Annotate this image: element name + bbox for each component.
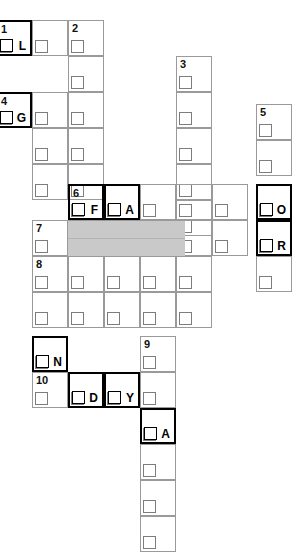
cell-r10c3[interactable]	[140, 372, 176, 408]
cell-r3c0[interactable]: 4G	[0, 92, 32, 128]
cell-r5c5[interactable]	[140, 164, 176, 200]
cell-notch-icon	[36, 355, 49, 368]
cell-r5c3-a[interactable]: A	[104, 184, 140, 220]
cell-a-bot[interactable]: A	[140, 408, 176, 444]
grid-cell[interactable]	[104, 292, 140, 328]
cell-r3c6[interactable]: 5	[256, 104, 292, 140]
cell-notch-icon	[71, 312, 84, 325]
cell-d[interactable]: D	[68, 372, 104, 408]
cell-9[interactable]: 9	[140, 336, 176, 372]
cell-notch-icon	[108, 203, 121, 216]
cell-10[interactable]: 10	[32, 372, 68, 408]
cell-letter: D	[89, 392, 98, 405]
cell-letter: Y	[126, 392, 134, 405]
clue-number: 1	[1, 23, 7, 35]
cell-notch-icon	[108, 391, 121, 404]
cell-r2c2[interactable]	[68, 56, 104, 92]
cell-r8c4[interactable]	[176, 256, 212, 292]
cell-r1c0[interactable]: 1L	[0, 20, 32, 56]
cell-notch-icon	[260, 203, 273, 216]
cell-r8c2[interactable]	[104, 256, 140, 292]
cell-r1c1[interactable]	[32, 20, 68, 56]
cell-r3c4[interactable]: 3	[176, 56, 212, 92]
grid-cell[interactable]	[68, 292, 104, 328]
cell-notch-icon	[215, 240, 228, 253]
cell-r9c1[interactable]	[32, 292, 68, 328]
cell-letter: L	[19, 40, 26, 53]
clue-number: 2	[72, 22, 78, 34]
cell-r5c2-six[interactable]: 6F	[68, 184, 104, 220]
grid-cell[interactable]	[212, 220, 248, 256]
cell-n[interactable]: N	[32, 336, 68, 372]
cell-r13c3[interactable]	[140, 480, 176, 516]
cell-r3c2[interactable]	[68, 92, 104, 128]
cell-letter: G	[17, 112, 26, 125]
cell-r5c5b[interactable]	[176, 200, 212, 236]
cell-letter: A	[125, 204, 134, 217]
clue-number: 10	[36, 374, 48, 386]
cell-notch-icon	[107, 312, 120, 325]
cell-notch-icon	[215, 204, 228, 217]
cell-letter: A	[161, 428, 170, 441]
cell-letter: O	[277, 204, 286, 217]
cell-r8c3[interactable]	[140, 256, 176, 292]
cell-r14c3[interactable]	[140, 516, 176, 552]
cell-notch-icon	[71, 148, 84, 161]
clue-number: 4	[1, 95, 7, 107]
grid-cell[interactable]	[32, 128, 68, 164]
cell-r7c0-eight[interactable]: 8	[32, 256, 68, 292]
clue-number: 8	[36, 258, 42, 270]
cell-r5c4[interactable]	[176, 128, 212, 164]
cell-letter: N	[53, 356, 62, 369]
clue-number: 3	[180, 58, 186, 70]
cell-notch-icon	[72, 203, 85, 216]
clue-number: 5	[260, 106, 266, 118]
cell-r4c4[interactable]	[176, 92, 212, 128]
cell-letter: R	[277, 240, 286, 253]
crossword-grid: 1L24G35OR6FA78N10DY9A	[0, 0, 306, 555]
cell-y[interactable]: Y	[104, 372, 140, 408]
cell-notch-icon	[179, 312, 192, 325]
cell-letter: F	[91, 204, 98, 217]
cell-notch-icon	[144, 427, 157, 440]
cell-r6c6[interactable]: R	[256, 220, 292, 256]
cell-r1c2[interactable]: 2	[68, 20, 104, 56]
clue-number: 9	[144, 338, 150, 350]
cell-r4c6[interactable]	[256, 140, 292, 176]
cell-r8c1[interactable]	[68, 256, 104, 292]
cell-notch-icon	[143, 312, 156, 325]
cell-r3c1[interactable]	[32, 92, 68, 128]
shaded-band-divider	[68, 238, 185, 239]
cell-r6c4[interactable]	[176, 164, 212, 200]
cell-notch-icon	[35, 148, 48, 161]
grid-cell[interactable]	[140, 292, 176, 328]
cell-notch-icon	[260, 239, 273, 252]
cell-notch-icon	[0, 39, 13, 52]
grid-cell[interactable]	[176, 292, 212, 328]
cell-notch-icon	[0, 111, 13, 124]
grid-cell[interactable]	[212, 184, 248, 220]
clue-number: 6	[73, 187, 79, 199]
cell-r12c3[interactable]	[140, 444, 176, 480]
cell-r5c1[interactable]	[32, 164, 68, 200]
cell-r5c6[interactable]: O	[256, 184, 292, 220]
cell-r6c0-seven[interactable]: 7	[32, 220, 68, 256]
cell-notch-icon	[143, 204, 156, 217]
grid-cell[interactable]	[68, 128, 104, 164]
cell-r7c6[interactable]	[256, 256, 292, 292]
clue-number: 7	[36, 222, 42, 234]
cell-notch-icon	[72, 391, 85, 404]
